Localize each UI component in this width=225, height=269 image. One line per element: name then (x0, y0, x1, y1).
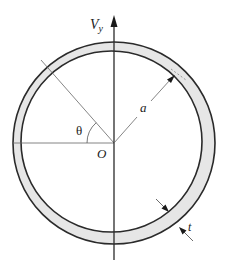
vy-arrowhead-icon (111, 15, 118, 27)
thickness-label: t (188, 220, 192, 234)
theta-label: θ (76, 123, 82, 138)
tube-cross-section-diagram: Vy θ O a t (0, 0, 225, 269)
theta-arc (87, 123, 96, 143)
vy-subscript: y (98, 23, 104, 34)
inner-circle (21, 51, 202, 232)
radius-line-lower (114, 117, 137, 143)
radius-line-upper (151, 80, 170, 101)
radius-label: a (140, 100, 147, 115)
vy-label: Vy (90, 17, 104, 34)
origin-label: O (97, 146, 107, 161)
